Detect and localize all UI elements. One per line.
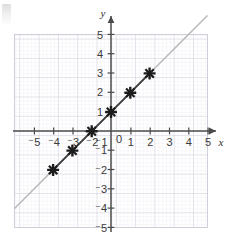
y-tick-label: 5 [97, 29, 103, 41]
y-tick-label: 2 [97, 86, 103, 98]
x-tick-label: ⁻4 [48, 136, 60, 148]
y-tick-label: ⁻2 [95, 164, 107, 176]
x-tick-label: 5 [205, 136, 211, 148]
y-tick-label: ⁻3 [95, 183, 107, 195]
x-tick-label: 3 [166, 136, 172, 148]
coordinate-plane: ⁻5 ⁻4 ⁻3 ⁻2 ⁻1 1 2 3 4 5 5 4 3 2 1 ⁻1 ⁻2… [0, 0, 249, 252]
x-tick-label: ⁻3 [67, 136, 79, 148]
graph-figure: ⁻5 ⁻4 ⁻3 ⁻2 ⁻1 1 2 3 4 5 5 4 3 2 1 ⁻1 ⁻2… [0, 0, 249, 252]
y-tick-label: ⁻1 [95, 144, 107, 156]
y-tick-label: 4 [97, 48, 103, 60]
x-tick-label: 4 [186, 136, 192, 148]
y-tick-label: 1 [97, 106, 103, 118]
x-tick-label: 1 [128, 136, 134, 148]
x-tick-label: 2 [147, 136, 153, 148]
y-tick-label: 3 [97, 67, 103, 79]
x-tick-label: ⁻5 [28, 136, 40, 148]
y-tick-label: ⁻5 [95, 222, 107, 234]
origin-label: 0 [116, 133, 122, 145]
y-tick-label: ⁻4 [95, 202, 107, 214]
x-axis-label: x [218, 136, 224, 148]
y-axis-label: y [100, 7, 106, 19]
